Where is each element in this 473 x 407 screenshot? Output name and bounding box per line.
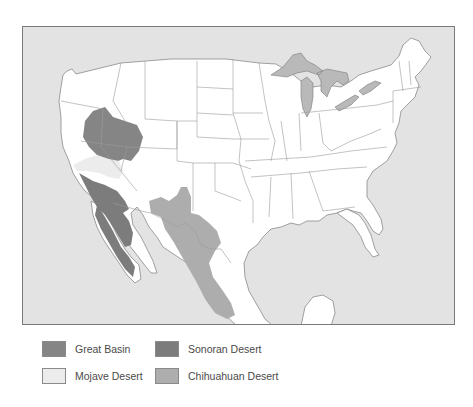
chihuahuan-swatch [155,368,179,384]
legend-label: Great Basin [75,343,130,355]
yucatan-land [301,295,335,325]
legend-label: Mojave Desert [75,370,143,382]
mojave-swatch [42,368,66,384]
sonoran-swatch [155,341,179,357]
map-frame [22,26,455,325]
legend-item-chihuahuan: Chihuahuan Desert [155,368,278,384]
legend-item-mojave: Mojave Desert [42,368,143,384]
desert-map [23,27,455,325]
great-basin-swatch [42,341,66,357]
legend-label: Sonoran Desert [188,343,262,355]
legend-item-sonoran: Sonoran Desert [155,341,262,357]
legend-item-great-basin: Great Basin [42,341,130,357]
legend-label: Chihuahuan Desert [188,370,278,382]
